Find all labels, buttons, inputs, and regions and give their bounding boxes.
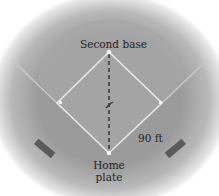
third-base-dugout: [34, 139, 55, 159]
home-plate-label-line2: plate: [84, 171, 134, 183]
home-plate-marker: [107, 151, 112, 156]
second-base-label: Second base: [80, 38, 140, 50]
side-length-label: 90 ft: [138, 132, 163, 144]
baseball-diamond-diagram: Second base Home plate 90 ft: [0, 0, 219, 196]
first-base-dugout: [165, 139, 186, 159]
third-base-marker: [59, 101, 62, 104]
first-base-marker: [159, 101, 162, 104]
home-plate-label: Home plate: [84, 159, 134, 183]
home-plate-label-line1: Home: [84, 159, 134, 171]
